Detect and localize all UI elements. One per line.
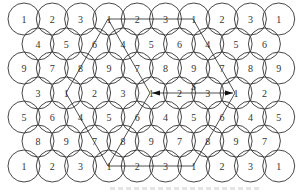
- cell-label: 9: [64, 136, 69, 147]
- cell-label: 6: [177, 39, 182, 50]
- cell-label: 4: [163, 112, 168, 123]
- cell-label: 5: [106, 112, 111, 123]
- cell-label: 6: [50, 112, 55, 123]
- cell-label: 4: [248, 112, 253, 123]
- cell-label: 1: [22, 161, 27, 172]
- cell-label: 1: [276, 161, 281, 172]
- cell-label: 8: [248, 63, 253, 74]
- cell-label: 9: [149, 136, 154, 147]
- distance-label-s: S: [191, 81, 196, 92]
- cell-label: 6: [262, 39, 267, 50]
- cell-label: 5: [191, 112, 196, 123]
- cell-label: 2: [50, 14, 55, 25]
- cell-label: 7: [50, 63, 55, 74]
- cell-label: 3: [78, 161, 83, 172]
- cell-reuse-diagram: 1231231231456456456978978978931231231256…: [0, 0, 297, 193]
- cell-label: 6: [135, 112, 140, 123]
- cell-labels: 1231231231456456456978978978931231231256…: [22, 14, 282, 172]
- cell-label: 8: [36, 136, 41, 147]
- diagram-canvas: 1231231231456456456978978978931231231256…: [0, 0, 297, 193]
- arrowhead-right-icon: [225, 91, 233, 96]
- cell-label: 5: [149, 39, 154, 50]
- figure-caption-faded: [110, 187, 260, 190]
- cell-label: 3: [36, 88, 41, 99]
- cell-label: 9: [276, 63, 281, 74]
- cell-label: 2: [220, 161, 225, 172]
- cell-label: 9: [191, 63, 196, 74]
- cell-label: 1: [234, 88, 239, 99]
- cell-label: 5: [276, 112, 281, 123]
- cell-label: 9: [106, 63, 111, 74]
- cell-label: 9: [22, 63, 27, 74]
- cell-label: 9: [234, 136, 239, 147]
- cell-label: 8: [163, 63, 168, 74]
- cell-label: 5: [234, 39, 239, 50]
- cell-label: 1: [276, 14, 281, 25]
- cell-label: 7: [92, 136, 97, 147]
- cell-label: 3: [120, 88, 125, 99]
- cell-label: 7: [262, 136, 267, 147]
- cell-label: 1: [22, 14, 27, 25]
- cell-label: 2: [50, 161, 55, 172]
- cell-label: 5: [64, 39, 69, 50]
- cell-label: 7: [177, 136, 182, 147]
- cell-label: 5: [22, 112, 27, 123]
- cell-label: 2: [92, 88, 97, 99]
- cell-label: 2: [220, 14, 225, 25]
- cell-label: 3: [78, 14, 83, 25]
- cell-label: 3: [248, 161, 253, 172]
- cell-label: 2: [262, 88, 267, 99]
- cell-label: 4: [36, 39, 41, 50]
- cell-label: 7: [220, 63, 225, 74]
- cell-label: 3: [248, 14, 253, 25]
